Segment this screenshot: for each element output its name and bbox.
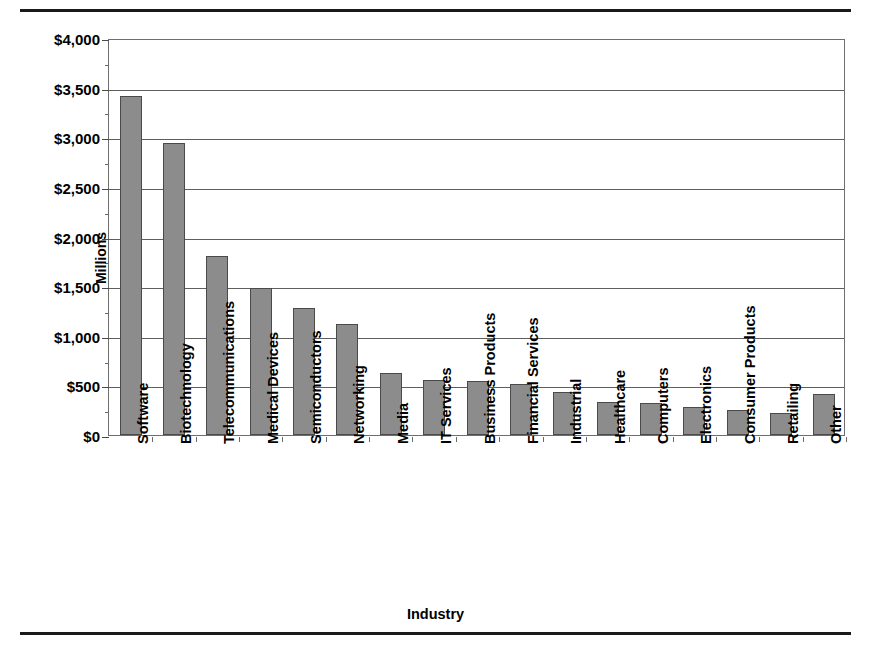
y-axis-tick bbox=[102, 189, 109, 190]
x-axis-category-label: Semiconductors bbox=[309, 330, 324, 444]
x-axis-tick bbox=[803, 437, 804, 442]
y-axis-tick-label: $2,000 bbox=[10, 230, 100, 245]
x-axis-category-label: Industrial bbox=[569, 379, 584, 444]
x-axis-tick bbox=[716, 437, 717, 442]
y-axis-tick bbox=[102, 288, 109, 289]
x-axis-category-label: Software bbox=[136, 383, 151, 444]
x-axis-category-label: IT Services bbox=[439, 367, 454, 444]
x-axis-tick bbox=[456, 437, 457, 442]
y-axis-minor-tick bbox=[105, 412, 109, 413]
x-axis-tick bbox=[239, 437, 240, 442]
y-axis-tick-label: $1,000 bbox=[10, 329, 100, 344]
y-axis-tick bbox=[102, 40, 109, 41]
chart-figure: Millions $0$500$1,000$1,500$2,000$2,500$… bbox=[0, 0, 871, 651]
x-axis-tick bbox=[586, 437, 587, 442]
y-axis-tick-label: $500 bbox=[10, 379, 100, 394]
x-axis-tick bbox=[846, 437, 847, 442]
x-axis-category-label: Computers bbox=[656, 367, 671, 444]
y-axis-minor-tick bbox=[105, 65, 109, 66]
y-axis-tick-label: $0 bbox=[10, 429, 100, 444]
x-axis-tick bbox=[629, 437, 630, 442]
y-axis-tick bbox=[102, 90, 109, 91]
x-axis-tick bbox=[326, 437, 327, 442]
x-axis-category-label: Telecommunications bbox=[222, 301, 237, 444]
y-axis-tick-label: $3,500 bbox=[10, 81, 100, 96]
x-axis-tick bbox=[369, 437, 370, 442]
x-axis-category-label: Networking bbox=[352, 365, 367, 444]
x-axis-category-label: Electronics bbox=[699, 366, 714, 444]
y-axis-tick-label: $3,000 bbox=[10, 131, 100, 146]
y-axis-tick bbox=[102, 387, 109, 388]
x-axis-category-label: Other bbox=[829, 405, 844, 444]
top-rule bbox=[20, 9, 851, 12]
x-axis-category-label: Medical Devices bbox=[266, 332, 281, 444]
y-axis-tick bbox=[102, 437, 109, 438]
y-axis-tick-label: $4,000 bbox=[10, 32, 100, 47]
y-axis-tick bbox=[102, 338, 109, 339]
gridline bbox=[109, 90, 844, 91]
gridline bbox=[109, 139, 844, 140]
x-axis-category-label: Retailing bbox=[786, 383, 801, 444]
x-axis-tick bbox=[412, 437, 413, 442]
x-axis-category-label: Media bbox=[396, 403, 411, 444]
bottom-rule bbox=[20, 632, 851, 635]
y-axis-minor-tick bbox=[105, 114, 109, 115]
y-axis-tick-label: $2,500 bbox=[10, 180, 100, 195]
x-axis-category-label: Biotechnology bbox=[179, 343, 194, 444]
y-axis-minor-tick bbox=[105, 164, 109, 165]
x-axis-category-label: Consumer Products bbox=[743, 305, 758, 444]
gridline bbox=[109, 189, 844, 190]
x-axis-category-label: Financial Services bbox=[526, 317, 541, 444]
y-axis-minor-tick bbox=[105, 363, 109, 364]
x-axis-tick bbox=[282, 437, 283, 442]
y-axis-tick-label: $1,500 bbox=[10, 280, 100, 295]
x-axis-tick bbox=[673, 437, 674, 442]
x-axis-tick bbox=[196, 437, 197, 442]
y-axis-minor-tick bbox=[105, 214, 109, 215]
x-axis-tick bbox=[499, 437, 500, 442]
x-axis-tick bbox=[759, 437, 760, 442]
x-axis-tick bbox=[543, 437, 544, 442]
x-axis-title: Industry bbox=[0, 606, 871, 622]
plot-frame: Millions bbox=[108, 39, 845, 436]
gridline bbox=[109, 239, 844, 240]
x-axis-category-label: Healthcare bbox=[613, 370, 628, 444]
x-axis-category-label: Business Products bbox=[483, 313, 498, 444]
y-axis-tick bbox=[102, 139, 109, 140]
y-axis-minor-tick bbox=[105, 313, 109, 314]
x-axis-tick bbox=[152, 437, 153, 442]
